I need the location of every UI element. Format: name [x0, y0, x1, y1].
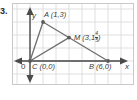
coordinate-plane: y A (1,3) M (3,145) 0 C (0,0) B (6,0) x [12, 3, 134, 85]
point-label-C: C (0,0) [32, 62, 55, 71]
median-segment [30, 38, 69, 61]
point-label-M-suffix: ) [98, 33, 101, 42]
y-axis-arrow-down [26, 75, 33, 83]
point-M [67, 36, 71, 40]
origin-label: 0 [21, 62, 25, 71]
point-label-B: B (6,0) [89, 62, 112, 71]
figure-screenshot: 3. [0, 0, 137, 100]
point-label-M-prefix: M (3,1 [74, 33, 95, 42]
point-A [41, 20, 45, 24]
x-axis-label: x [125, 62, 129, 71]
problem-number: 3. [0, 6, 11, 17]
point-label-A: A (1,3) [44, 10, 66, 19]
y-axis-label: y [32, 11, 36, 20]
point-label-M: M (3,145) [74, 31, 101, 43]
